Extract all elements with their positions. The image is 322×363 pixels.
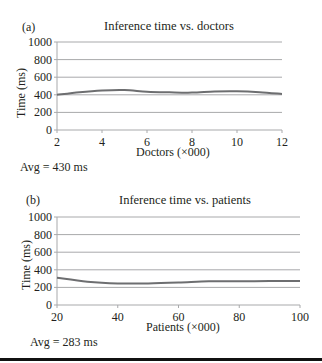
svg-text:1000: 1000 — [28, 210, 52, 224]
bottom-divider — [0, 358, 322, 361]
average-annotation: Avg = 283 ms — [30, 335, 98, 350]
svg-text:200: 200 — [34, 280, 52, 294]
svg-text:20: 20 — [51, 310, 63, 324]
chart-patients: (b) Inference time vs. patients Time (ms… — [0, 0, 322, 363]
svg-text:400: 400 — [34, 263, 52, 277]
svg-text:800: 800 — [34, 228, 52, 242]
svg-text:80: 80 — [233, 310, 245, 324]
svg-text:40: 40 — [112, 310, 124, 324]
svg-text:600: 600 — [34, 245, 52, 259]
plot-area: 0200400600800100020406080100 — [0, 0, 322, 363]
x-axis-label: Patients (×000) — [146, 320, 220, 335]
svg-text:100: 100 — [291, 310, 309, 324]
